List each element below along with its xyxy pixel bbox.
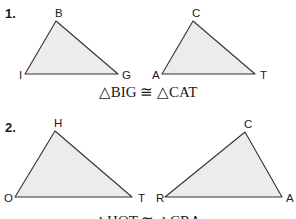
triangle-shape — [165, 132, 282, 197]
vertex-label-c: C — [244, 118, 252, 130]
vertex-label-t: T — [260, 69, 267, 81]
congruence-statement: △HOT ≅ △CRA — [95, 213, 201, 219]
vertex-label-h: H — [54, 117, 62, 129]
problem-number: 2. — [5, 120, 16, 135]
triangle-cat: C A T — [152, 7, 267, 81]
problem-1: 1. B I G C A T △BIG ≅ △CAT — [5, 6, 267, 100]
vertex-label-t: T — [138, 192, 145, 204]
triangle-hot: H O T — [4, 117, 145, 204]
triangle-shape — [15, 131, 132, 197]
triangle-cra: C R A — [156, 118, 294, 204]
problem-2: 2. H O T C R A △HOT ≅ △CRA — [4, 117, 294, 219]
vertex-label-r: R — [156, 192, 164, 204]
triangle-shape — [162, 21, 255, 74]
vertex-label-g: G — [122, 69, 131, 81]
vertex-label-a: A — [286, 192, 294, 204]
vertex-label-a: A — [152, 69, 160, 81]
congruence-statement: △BIG ≅ △CAT — [99, 84, 198, 100]
congruent-triangles-figure: 1. B I G C A T △BIG ≅ △CAT 2. H O T C R … — [0, 0, 296, 219]
vertex-label-c: C — [192, 7, 200, 19]
triangle-big: B I G — [19, 7, 131, 81]
problem-number: 1. — [5, 6, 16, 21]
vertex-label-o: O — [4, 192, 13, 204]
vertex-label-i: I — [19, 69, 22, 81]
triangle-shape — [25, 21, 118, 74]
vertex-label-b: B — [55, 7, 63, 19]
